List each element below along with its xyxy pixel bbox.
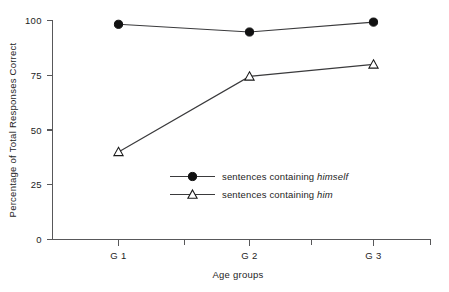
legend-entry-himself: sentences containing himself [170, 171, 349, 182]
chart-legend: sentences containing himself sentences c… [170, 171, 349, 200]
x-axis-ticks [119, 240, 431, 246]
y-tick-label-25: 25 [31, 179, 42, 190]
x-tick-label-g2: G 2 [241, 250, 258, 261]
legend-label-himself: sentences containing himself [222, 171, 349, 182]
series-him [114, 60, 378, 156]
legend-marker-filled-circle-icon [188, 172, 196, 180]
x-axis-tick-labels: G 1 G 2 G 3 [110, 250, 382, 261]
line-chart-svg: Percentage of Total Responses Correct 10… [0, 0, 449, 292]
legend-label-him-italic: him [317, 189, 333, 200]
y-axis-tick-labels: 100 75 50 25 0 [25, 15, 42, 245]
legend-label-him: sentences containing him [222, 189, 333, 200]
y-tick-label-75: 75 [31, 70, 42, 81]
legend-entry-him: sentences containing him [170, 189, 333, 200]
x-axis-title: Age groups [212, 269, 263, 280]
chart-figure: Percentage of Total Responses Correct 10… [0, 0, 449, 292]
series-him-point-g3 [369, 60, 378, 68]
series-himself-point-g1 [114, 20, 122, 28]
legend-label-himself-italic: himself [317, 171, 349, 182]
series-himself-point-g2 [245, 28, 253, 36]
x-tick-label-g3: G 3 [365, 250, 382, 261]
legend-label-himself-plain: sentences containing [222, 171, 314, 182]
legend-label-him-plain: sentences containing [222, 189, 314, 200]
series-himself [114, 18, 377, 36]
y-axis-title: Percentage of Total Responses Correct [7, 42, 18, 217]
series-him-point-g1 [114, 147, 123, 155]
y-tick-label-0: 0 [36, 234, 42, 245]
x-tick-label-g1: G 1 [110, 250, 127, 261]
y-axis-ticks [47, 21, 53, 240]
series-himself-point-g3 [369, 18, 377, 26]
y-tick-label-50: 50 [31, 125, 42, 136]
y-tick-label-100: 100 [25, 15, 42, 26]
